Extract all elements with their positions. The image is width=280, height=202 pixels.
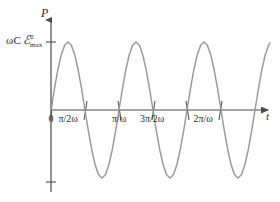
x-tick-label-pi-2w: π/2ω xyxy=(59,113,78,124)
x-tick-label-0: 0 xyxy=(49,113,54,124)
power-vs-time-chart: P t ωCℰ2max 0 π/2ω π/ω 3π/2ω 2π/ω xyxy=(0,0,280,202)
x-axis-label: t xyxy=(266,110,269,122)
x-tick-label-pi-w: π/ω xyxy=(112,113,126,124)
y-tick-label-peak: ωCℰ2max xyxy=(6,33,43,49)
y-axis-label: P xyxy=(41,6,48,21)
x-tick-label-3pi-2w: 3π/2ω xyxy=(140,113,164,124)
x-tick-label-2pi-w: 2π/ω xyxy=(194,113,213,124)
chart-plot-area xyxy=(0,0,280,202)
